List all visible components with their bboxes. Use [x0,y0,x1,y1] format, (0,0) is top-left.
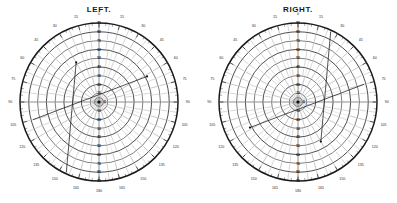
hatch-tick [111,136,113,142]
hatch-tick [263,42,266,48]
hatch-tick [121,57,124,63]
rim-tick [148,161,150,163]
fixation-dot [97,100,100,103]
hatch-tick [83,105,89,107]
hatch-tick [106,42,107,49]
hatch-tick [266,90,272,92]
hatch-tick [66,62,70,67]
rim-tick [118,26,119,30]
hatch-tick [229,110,236,111]
hatch-tick [307,98,313,100]
hatch-tick [108,70,110,76]
hatch-tick [304,60,305,67]
hatch-tick [246,72,252,75]
hatch-tick [325,50,328,56]
hatch-tick [291,60,292,67]
hatch-tick [54,76,60,79]
hatch-tick [43,123,49,126]
rim-tick [230,63,234,65]
angle-label-l-75: 75 [210,77,214,81]
rim-tick [79,26,80,30]
hatch-tick [70,116,76,119]
hatch-tick [91,42,92,49]
hatch-tick [92,138,93,145]
hatch-tick [307,25,308,32]
hatch-tick [108,105,114,107]
hatch-tick [249,146,254,151]
hatch-tick [240,86,246,88]
hatch-tick [123,116,129,119]
hatch-tick [342,53,347,58]
hatch-tick [277,133,280,139]
hatch-tick [249,84,255,86]
hatch-tick [258,114,264,116]
hatch-tick [283,62,285,68]
angle-label-r-150: 150 [140,177,146,181]
hatch-tick [170,111,177,112]
hatch-tick [310,62,312,68]
hatch-tick [120,46,123,52]
hatch-tick [104,78,106,84]
angle-label-l-45: 45 [34,38,38,42]
hatch-tick [314,35,316,41]
rim-tick [79,174,80,178]
hatch-tick [307,94,313,97]
hatch-tick [120,80,125,84]
rim-tick [242,155,245,158]
hatch-tick [141,117,147,119]
hatch-tick [342,110,349,111]
hatch-tick [62,120,68,123]
radius-label-30-up: 30 [97,74,101,78]
hatch-tick [56,140,61,145]
angle-label-l-90: 90 [8,100,12,104]
radius-label-10-down: 10 [296,109,300,113]
hatch-tick [90,146,91,153]
angle-label-r-60: 60 [174,56,178,60]
hatch-tick [85,94,91,97]
hatch-tick [355,145,360,149]
hatch-tick [329,81,335,84]
rim-tick [347,41,349,43]
hatch-tick [152,109,159,110]
hatch-tick [243,60,248,64]
hatch-tick [356,126,362,129]
hatch-tick [264,107,271,108]
hatch-tick [307,128,309,134]
hatch-tick [78,133,81,139]
field-trace-upper-endpoint [249,126,251,128]
rim-tick [148,41,150,43]
hatch-tick [234,76,240,79]
hatch-tick [304,138,305,145]
polar-plot-left: 0151530304545606075759090105105120120135… [0,12,198,200]
hatch-tick [22,111,29,112]
hatch-tick [336,47,340,52]
hatch-tick [276,76,280,81]
hatch-tick [92,120,94,126]
hatch-tick [117,133,120,139]
radius-label-70-up: 70 [296,39,300,43]
angle-label-l-15: 15 [273,15,277,19]
hatch-tick [311,84,316,89]
hatch-tick [135,95,142,96]
angle-label-l-105: 105 [209,123,215,127]
hatch-tick [234,126,240,129]
hatch-tick [48,93,55,94]
hatch-tick [117,76,121,81]
hatch-tick [123,160,126,166]
hatch-tick [331,54,335,59]
radius-label-70-up: 70 [97,39,101,43]
hatch-tick [81,35,83,41]
hatch-tick [286,128,288,134]
hatch-tick [303,111,306,117]
angle-label-r-15: 15 [319,15,323,19]
hatch-tick [92,60,93,67]
rim-tick [38,151,40,153]
hatch-tick [226,72,232,75]
hatch-tick [268,30,271,36]
angle-label-l-135: 135 [232,163,238,167]
angle-label-l-15: 15 [74,15,78,19]
hatch-tick [51,65,56,69]
rim-tick [370,121,374,122]
hatch-tick [364,72,370,75]
hatch-tick [73,120,78,124]
